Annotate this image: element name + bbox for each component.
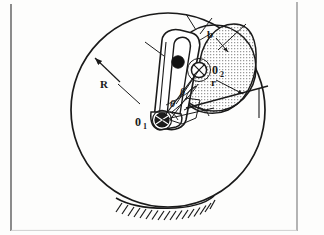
mechanism-diagram: R 0 1 0 2 r b β θ (0, 0, 324, 235)
label-pivot-o2: 0 (212, 63, 218, 77)
label-pivot-o1-subscript: 1 (143, 122, 147, 131)
label-angle-theta: θ (170, 98, 176, 109)
label-pivot-o2-subscript: 2 (220, 70, 224, 79)
slider-block-square (174, 58, 183, 67)
label-radius-r: R (100, 78, 109, 90)
label-dimension-b: b (207, 28, 213, 40)
figure-container: R 0 1 0 2 r b β θ (0, 0, 324, 235)
slider-block-group (172, 56, 184, 68)
label-pivot-o1: 0 (135, 115, 141, 129)
label-angle-beta: β (179, 86, 186, 97)
label-radius-small: r (211, 76, 216, 88)
